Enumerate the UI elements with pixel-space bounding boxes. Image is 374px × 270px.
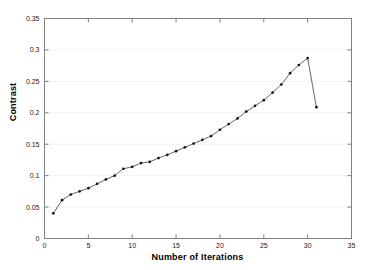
axis-box-rect: [45, 19, 352, 239]
data-point-marker: [306, 57, 309, 60]
data-point-marker: [113, 174, 116, 177]
data-point-marker: [87, 187, 90, 190]
x-tick-label: 5: [86, 242, 90, 249]
y-tick-labels-group: 00.050.10.150.20.250.30.35: [26, 15, 40, 242]
data-point-marker: [175, 150, 178, 153]
data-point-marker: [157, 157, 160, 160]
data-point-marker: [245, 110, 248, 113]
x-tick-label: 15: [172, 242, 180, 249]
y-tick-label: 0.1: [30, 172, 40, 179]
data-point-marker: [210, 135, 213, 138]
y-tick-label: 0: [36, 235, 40, 242]
data-point-marker: [298, 64, 301, 67]
data-marker-group: [52, 57, 318, 215]
x-tick-label: 30: [304, 242, 312, 249]
data-point-marker: [315, 106, 318, 109]
data-point-marker: [122, 167, 125, 170]
data-point-marker: [236, 117, 239, 120]
gridlines-group: [45, 19, 352, 208]
x-tick-label: 0: [43, 242, 47, 249]
x-tickmarks-group: [45, 19, 352, 239]
y-tick-label: 0.25: [26, 78, 40, 85]
x-tick-label: 35: [348, 242, 356, 249]
data-point-marker: [192, 142, 195, 145]
data-point-marker: [69, 193, 72, 196]
data-point-marker: [271, 91, 274, 94]
y-tickmarks-group: [45, 19, 352, 239]
data-point-marker: [166, 154, 169, 157]
data-point-marker: [61, 199, 64, 202]
x-tick-labels-group: 05101520253035: [43, 242, 356, 249]
data-point-marker: [183, 146, 186, 149]
data-point-marker: [289, 72, 292, 75]
data-point-marker: [148, 160, 151, 163]
data-point-marker: [254, 105, 257, 108]
y-tick-label: 0.2: [30, 109, 40, 116]
data-point-marker: [201, 138, 204, 141]
chart-figure: Contrast Number of Iterations 0510152025…: [0, 0, 374, 270]
data-point-marker: [105, 178, 108, 181]
data-point-marker: [227, 123, 230, 126]
axis-frame: [45, 19, 352, 239]
y-tick-label: 0.3: [30, 46, 40, 53]
x-tick-label: 25: [260, 242, 268, 249]
data-point-marker: [262, 99, 265, 102]
data-point-marker: [96, 182, 99, 185]
x-tick-label: 10: [128, 242, 136, 249]
x-tick-label: 20: [216, 242, 224, 249]
data-point-marker: [78, 190, 81, 193]
plot-area: 05101520253035 00.050.10.150.20.250.30.3…: [0, 0, 374, 270]
y-tick-label: 0.05: [26, 204, 40, 211]
data-point-marker: [52, 212, 55, 215]
data-point-marker: [280, 83, 283, 86]
data-point-marker: [131, 165, 134, 168]
y-tick-label: 0.35: [26, 15, 40, 22]
data-point-marker: [219, 128, 222, 131]
data-point-marker: [140, 162, 143, 165]
y-tick-label: 0.15: [26, 141, 40, 148]
